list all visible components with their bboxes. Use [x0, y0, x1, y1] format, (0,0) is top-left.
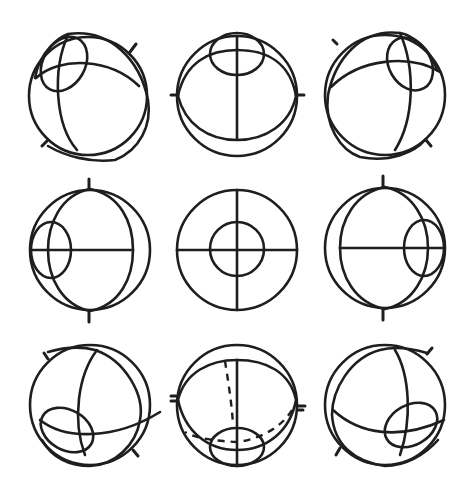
tick-mark	[42, 141, 47, 146]
sphere-up-left	[29, 28, 149, 160]
cornea-circle	[377, 394, 445, 457]
tick-mark	[426, 140, 431, 146]
equator	[331, 61, 440, 87]
sphere-down	[171, 345, 305, 466]
sphere-up-right	[325, 29, 445, 158]
tick-mark	[130, 44, 136, 52]
hidden-meridian-dashed	[225, 361, 233, 425]
eye-rotation-diagram	[0, 0, 474, 493]
tick-mark	[133, 450, 138, 456]
equator	[36, 63, 139, 86]
meridian	[58, 35, 77, 150]
tick-mark	[427, 348, 432, 354]
meridian	[395, 33, 411, 150]
rotated-limb	[332, 348, 438, 466]
tick-mark	[333, 40, 337, 44]
tick-mark	[44, 353, 48, 359]
sphere-down-left	[30, 345, 160, 466]
sphere-primary	[177, 190, 297, 310]
tick-mark	[336, 448, 340, 455]
sphere-right	[325, 176, 445, 320]
cornea-circle	[33, 399, 101, 462]
sphere-down-right	[325, 345, 445, 466]
sphere-up	[171, 33, 304, 156]
equator	[40, 412, 160, 434]
meridian	[395, 350, 408, 455]
sphere-left	[30, 179, 150, 322]
